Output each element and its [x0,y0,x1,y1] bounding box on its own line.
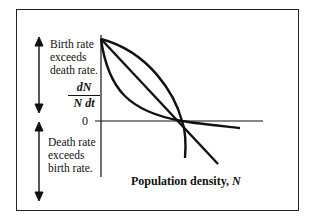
y-axis-label: dN N dt [68,81,100,110]
y-axis-denominator: N dt [68,96,100,110]
lower-range-arrow [35,122,43,201]
lower-label-line: Death rate [48,136,96,149]
upper-label-line: exceeds [50,51,98,64]
x-axis-variable: N [232,174,241,188]
upper-range-arrow [35,37,43,113]
upper-label-line: death rate. [50,64,98,77]
lower-region-label: Death rate exceeds birth rate. [48,136,96,175]
upper-region-label: Birth rate exceeds death rate. [50,38,98,77]
upper-label-line: Birth rate [50,38,98,51]
zero-tick-label: 0 [82,114,88,129]
x-axis-label: Population density, N [131,174,241,189]
y-axis-numerator: dN [68,81,100,96]
lower-label-line: exceeds [48,149,96,162]
x-axis-label-text: Population density, [131,174,229,188]
linear-curve [101,39,218,164]
density-dependence-plot [0,0,312,224]
lower-label-line: birth rate. [48,162,96,175]
